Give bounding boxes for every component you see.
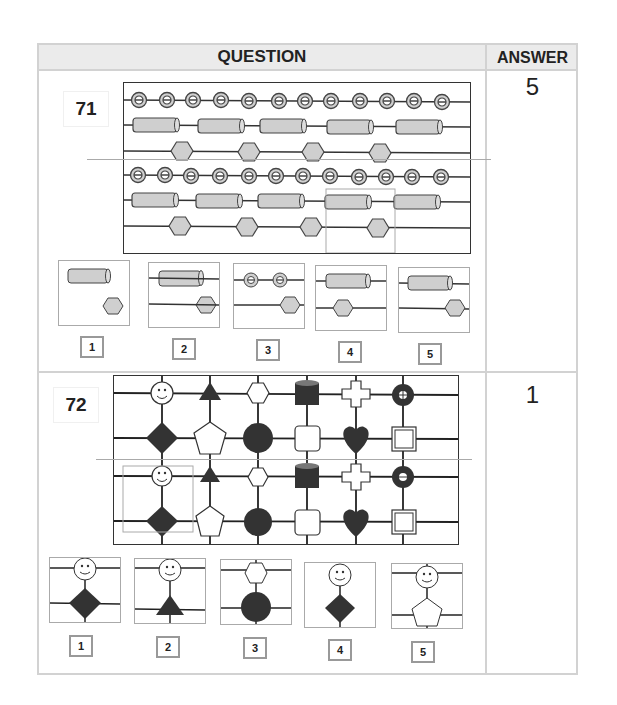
q71-guide-line — [87, 159, 491, 160]
q72-guide-line — [96, 459, 472, 460]
q71-option-3-label[interactable]: 3 — [256, 339, 280, 361]
q72-option-4-figure[interactable] — [304, 562, 376, 628]
q72-option-3-label[interactable]: 3 — [243, 637, 267, 659]
q72-pattern-figure — [113, 375, 459, 545]
q72-option-3-figure[interactable] — [220, 559, 292, 625]
question-column-header: QUESTION — [39, 45, 485, 69]
q71-option-5-label[interactable]: 5 — [418, 343, 442, 365]
q72-option-1-figure[interactable] — [49, 557, 121, 623]
answer-column-header: ANSWER — [487, 45, 578, 69]
answer-72: 1 — [487, 381, 578, 409]
row-divider — [39, 371, 576, 373]
question-number-72: 72 — [53, 387, 99, 423]
q72-option-2-figure[interactable] — [134, 558, 206, 624]
q71-option-3-figure[interactable] — [233, 263, 305, 329]
question-number-71: 71 — [63, 91, 109, 127]
q72-option-4-label[interactable]: 4 — [328, 639, 352, 661]
q72-option-5-figure[interactable] — [391, 563, 463, 629]
q71-option-4-figure[interactable] — [315, 265, 387, 331]
q71-option-1-figure[interactable] — [58, 260, 130, 326]
q71-option-5-figure[interactable] — [398, 267, 470, 333]
answer-71: 5 — [487, 73, 578, 101]
q72-option-2-label[interactable]: 2 — [156, 636, 180, 658]
table-header: QUESTION ANSWER — [39, 45, 576, 71]
q71-pattern-figure — [123, 82, 471, 254]
column-divider — [485, 45, 487, 673]
q71-option-1-label[interactable]: 1 — [80, 336, 104, 358]
question-answer-table: QUESTION ANSWER 71 5 — [37, 43, 578, 675]
q71-option-2-label[interactable]: 2 — [172, 338, 196, 360]
q72-option-1-label[interactable]: 1 — [69, 635, 93, 657]
q72-option-5-label[interactable]: 5 — [411, 641, 435, 663]
q71-option-4-label[interactable]: 4 — [338, 341, 362, 363]
q71-option-2-figure[interactable] — [148, 262, 220, 328]
